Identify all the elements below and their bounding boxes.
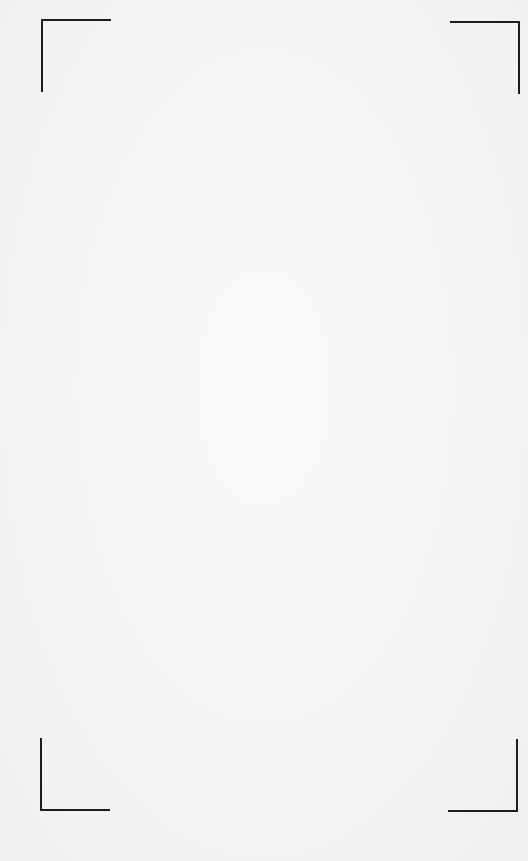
camera-viewfinder [0,0,528,861]
corner-bracket-bottom-left-icon [40,738,110,811]
scan-area[interactable] [42,20,519,810]
corner-bracket-bottom-right-icon [448,739,518,812]
corner-bracket-top-right-icon [450,21,520,94]
corner-bracket-top-left-icon [41,19,111,92]
